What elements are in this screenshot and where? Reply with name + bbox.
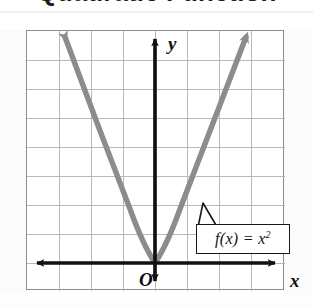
figure-page: Quadratic Function <box>0 0 313 307</box>
page-title-clip: Quadratic Function <box>0 0 313 11</box>
page-title: Quadratic Function <box>0 0 313 8</box>
page-margin-right <box>284 30 313 307</box>
equation-exponent: 2 <box>266 229 271 240</box>
x-axis-label: x <box>290 271 300 290</box>
page-margin-bottom <box>0 292 313 307</box>
equation-text: f(x) = x2 <box>215 229 271 248</box>
y-axis-label: y <box>168 34 176 53</box>
equation-base: f(x) = x <box>215 231 266 248</box>
origin-label: O <box>139 270 153 289</box>
title-divider <box>0 11 313 13</box>
page-margin-left <box>0 30 26 307</box>
equation-callout-box: f(x) = x2 <box>196 224 290 254</box>
